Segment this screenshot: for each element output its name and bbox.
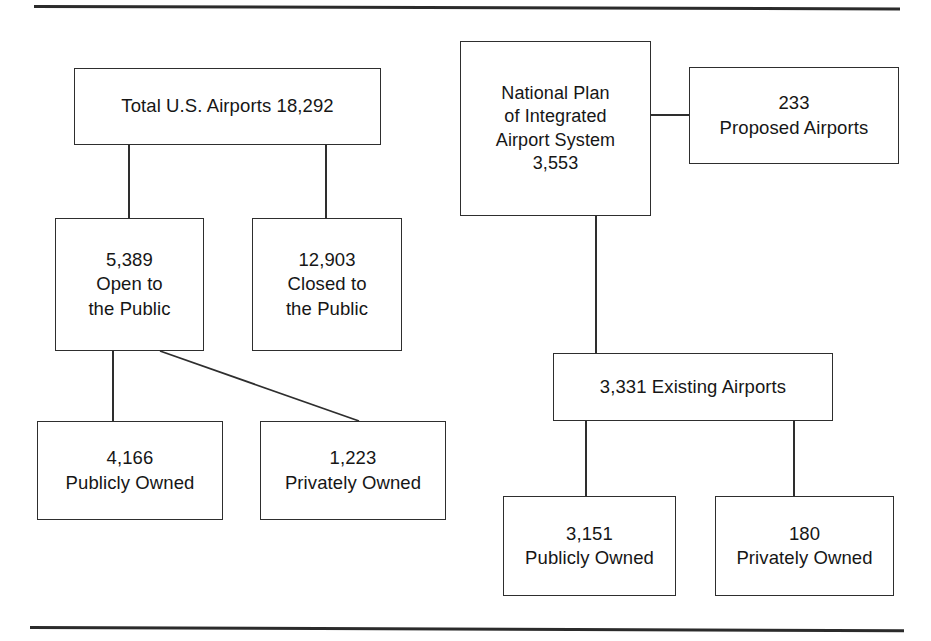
node-right-privately-owned-text: 180 Privately Owned: [722, 522, 887, 570]
node-left-publicly-owned: 4,166 Publicly Owned: [37, 421, 223, 520]
text-line: 3,151: [510, 522, 669, 546]
text-line: the Public: [259, 297, 395, 321]
text-line: 180: [722, 522, 887, 546]
text-line: the Public: [62, 297, 197, 321]
node-national-plan-of-integrated-airport-system: National Plan of Integrated Airport Syst…: [460, 41, 651, 216]
connector-existing-to-privately-owned: [793, 421, 795, 497]
text-line: Proposed Airports: [696, 116, 892, 140]
text-line: National Plan: [467, 82, 644, 105]
text-line: Closed to: [259, 272, 395, 296]
node-left-privately-owned: 1,223 Privately Owned: [260, 421, 446, 520]
node-proposed-airports: 233 Proposed Airports: [689, 67, 899, 164]
text-line: 12,903: [259, 248, 395, 272]
text-line: Airport System: [467, 129, 644, 152]
node-proposed-airports-text: 233 Proposed Airports: [696, 91, 892, 139]
diagram-canvas: Total U.S. Airports 18,292 5,389 Open to…: [0, 0, 931, 641]
text-line: 4,166: [44, 446, 216, 470]
node-left-publicly-owned-text: 4,166 Publicly Owned: [44, 446, 216, 494]
text-line: Privately Owned: [267, 471, 439, 495]
text-line: of Integrated: [467, 105, 644, 128]
node-closed-to-the-public-text: 12,903 Closed to the Public: [259, 248, 395, 320]
text-line: Open to: [62, 272, 197, 296]
text-line: 233: [696, 91, 892, 115]
node-existing-airports: 3,331 Existing Airports: [553, 353, 833, 421]
connector-npias-to-existing: [595, 216, 597, 354]
text-line: Total U.S. Airports 18,292: [81, 94, 374, 118]
text-line: 3,553: [467, 152, 644, 175]
text-line: Publicly Owned: [44, 471, 216, 495]
text-line: 3,331 Existing Airports: [560, 375, 826, 399]
connector-total-to-open: [128, 145, 130, 219]
text-line: 5,389: [62, 248, 197, 272]
node-existing-airports-text: 3,331 Existing Airports: [560, 375, 826, 399]
connector-existing-to-publicly-owned: [585, 421, 587, 497]
node-open-to-the-public: 5,389 Open to the Public: [55, 218, 204, 351]
connector-open-to-publicly-owned: [112, 351, 114, 422]
connector-npias-to-proposed: [650, 114, 690, 116]
node-closed-to-the-public: 12,903 Closed to the Public: [252, 218, 402, 351]
node-right-privately-owned: 180 Privately Owned: [715, 496, 894, 596]
node-open-to-the-public-text: 5,389 Open to the Public: [62, 248, 197, 320]
connector-total-to-closed: [325, 145, 327, 219]
node-left-privately-owned-text: 1,223 Privately Owned: [267, 446, 439, 494]
node-right-publicly-owned-text: 3,151 Publicly Owned: [510, 522, 669, 570]
top-horizontal-rule: [34, 5, 900, 10]
node-right-publicly-owned: 3,151 Publicly Owned: [503, 496, 676, 596]
bottom-horizontal-rule: [30, 626, 904, 632]
text-line: Privately Owned: [722, 546, 887, 570]
node-total-us-airports: Total U.S. Airports 18,292: [74, 68, 381, 145]
connector-open-to-privately-owned: [158, 349, 361, 423]
node-total-us-airports-text: Total U.S. Airports 18,292: [81, 94, 374, 118]
node-npias-text: National Plan of Integrated Airport Syst…: [467, 82, 644, 176]
text-line: Publicly Owned: [510, 546, 669, 570]
text-line: 1,223: [267, 446, 439, 470]
